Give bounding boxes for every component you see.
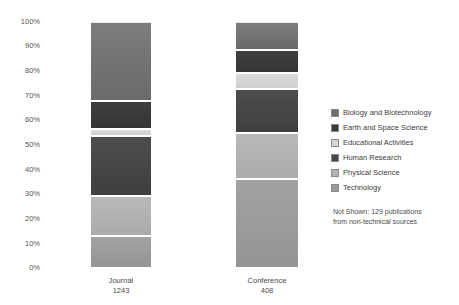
- segment-journal-human-research[interactable]: [91, 136, 151, 197]
- y-tick-70: 70%: [25, 92, 40, 100]
- x-label-journal-count: 1243: [61, 286, 181, 296]
- legend-label: Educational Activities: [343, 138, 413, 147]
- bar-conference[interactable]: [236, 22, 298, 268]
- not-shown-line-2: from non-technical sources: [333, 217, 457, 227]
- not-shown-line-1: Not Shown: 129 publications: [333, 207, 457, 217]
- legend-swatch-icon: [331, 109, 339, 117]
- segment-conference-educational-activities[interactable]: [236, 73, 298, 89]
- legend-swatch-icon: [331, 184, 339, 192]
- segment-conference-human-research[interactable]: [236, 89, 298, 133]
- not-shown-annotation: Not Shown: 129 publications from non-tec…: [333, 207, 457, 227]
- legend-item-physical-science[interactable]: Physical Science: [331, 165, 457, 180]
- legend: Biology and Biotechnology Earth and Spac…: [331, 105, 457, 195]
- x-label-conference-name: Conference: [248, 276, 287, 285]
- legend-label: Human Research: [343, 153, 401, 162]
- segment-journal-educational-activities[interactable]: [91, 129, 151, 136]
- segment-journal-technology[interactable]: [91, 236, 151, 268]
- legend-label: Earth and Space Science: [343, 123, 428, 132]
- y-tick-0: 0%: [29, 264, 40, 272]
- legend-swatch-icon: [331, 169, 339, 177]
- legend-swatch-icon: [331, 139, 339, 147]
- y-axis: 100% 90% 80% 70% 60% 50% 40% 30% 20% 10%…: [0, 0, 46, 305]
- segment-journal-biology-and-biotechnology[interactable]: [91, 22, 151, 101]
- y-tick-10: 10%: [25, 240, 40, 248]
- y-tick-100: 100%: [21, 18, 40, 26]
- legend-swatch-icon: [331, 124, 339, 132]
- y-tick-60: 60%: [25, 116, 40, 124]
- y-tick-30: 30%: [25, 190, 40, 198]
- x-label-journal: Journal 1243: [61, 276, 181, 296]
- x-label-conference-count: 408: [207, 286, 327, 296]
- y-tick-80: 80%: [25, 67, 40, 75]
- segment-journal-earth-and-space-science[interactable]: [91, 101, 151, 129]
- legend-item-human-research[interactable]: Human Research: [331, 150, 457, 165]
- x-label-conference: Conference 408: [207, 276, 327, 296]
- bar-journal[interactable]: [91, 22, 151, 268]
- legend-swatch-icon: [331, 154, 339, 162]
- y-tick-50: 50%: [25, 141, 40, 149]
- segment-journal-physical-science[interactable]: [91, 196, 151, 235]
- segment-conference-technology[interactable]: [236, 179, 298, 268]
- segment-conference-biology-and-biotechnology[interactable]: [236, 22, 298, 50]
- y-tick-90: 90%: [25, 42, 40, 50]
- legend-label: Physical Science: [343, 168, 400, 177]
- legend-label: Biology and Biotechnology: [343, 108, 431, 117]
- legend-item-technology[interactable]: Technology: [331, 180, 457, 195]
- segment-conference-earth-and-space-science[interactable]: [236, 50, 298, 73]
- stacked-bar-chart: 100% 90% 80% 70% 60% 50% 40% 30% 20% 10%…: [0, 0, 459, 305]
- y-tick-20: 20%: [25, 215, 40, 223]
- legend-item-earth-and-space-science[interactable]: Earth and Space Science: [331, 120, 457, 135]
- plot-area: Journal 1243 Conference 408: [46, 0, 326, 305]
- x-label-journal-name: Journal: [109, 276, 134, 285]
- legend-item-biology-and-biotechnology[interactable]: Biology and Biotechnology: [331, 105, 457, 120]
- y-tick-40: 40%: [25, 166, 40, 174]
- legend-item-educational-activities[interactable]: Educational Activities: [331, 135, 457, 150]
- legend-label: Technology: [343, 183, 381, 192]
- segment-conference-physical-science[interactable]: [236, 133, 298, 179]
